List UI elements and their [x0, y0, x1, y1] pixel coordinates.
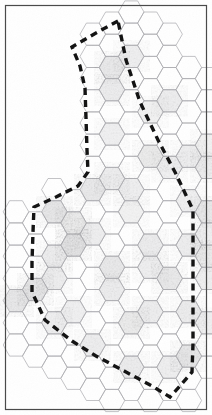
hex-map-svg: [0, 0, 212, 415]
hex-map-container: [0, 0, 212, 415]
